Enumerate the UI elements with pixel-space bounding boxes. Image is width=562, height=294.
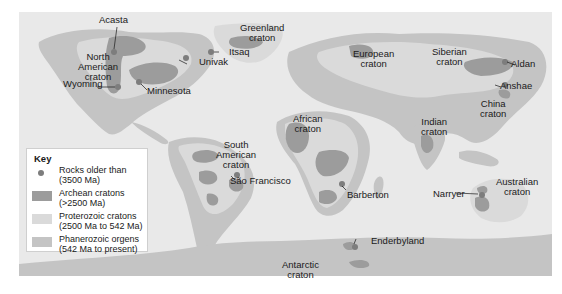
craton-label-indian: Indian craton <box>421 117 447 137</box>
narryer-dot <box>479 192 485 198</box>
site-label-acasta: Acasta <box>99 15 128 25</box>
univak-dot <box>183 55 189 61</box>
craton-label-european: European craton <box>353 49 394 69</box>
map-legend: Key Rocks older than (3500 Ma) Archean c… <box>26 148 148 252</box>
phanerozoic-swatch-icon <box>32 237 52 247</box>
craton-label-australian: Australian craton <box>496 177 538 197</box>
legend-item-phanerozoic: Phanerozoic orgens (542 Ma to present) <box>32 234 148 256</box>
site-label-itsaq: Itsaq <box>229 47 250 57</box>
central-america <box>131 122 168 144</box>
enderbyland-dot <box>352 244 358 250</box>
legend-item-old-rocks: Rocks older than (3500 Ma) <box>32 165 148 187</box>
site-label-minnesota: Minnesota <box>147 86 191 96</box>
craton-label-african: African craton <box>293 114 323 134</box>
legend-item-proterozoic: Proterozoic cratons (2500 Ma to 542 Ma) <box>32 211 148 233</box>
proterozoic-swatch-icon <box>32 214 52 224</box>
se-asia-islands <box>459 150 499 166</box>
site-label-anshae: Anshae <box>500 81 532 91</box>
craton-label-siberian: Siberian craton <box>432 47 467 67</box>
site-label-barberton: Barberton <box>347 190 389 200</box>
archean-swatch-icon <box>32 191 52 201</box>
craton-label-north-american: North American craton <box>78 52 118 82</box>
old-rock-dot-icon <box>38 170 44 176</box>
craton-label-south-american: South American craton <box>216 140 256 170</box>
itsaq-dot <box>208 49 214 55</box>
legend-title: Key <box>34 153 51 164</box>
craton-label-antarctic: Antarctic craton <box>282 260 319 280</box>
wyoming-dot <box>115 84 121 90</box>
site-label-narryer: Narryer <box>433 189 465 199</box>
legend-item-archean: Archean cratons (>2500 Ma) <box>32 188 148 210</box>
craton-label-china: China craton <box>480 99 506 119</box>
craton-label-greenland: Greenland craton <box>240 23 284 43</box>
site-label-enderbyland: Enderbyland <box>371 236 424 246</box>
site-label-sao-francisco: São Francisco <box>230 176 291 186</box>
site-label-univak: Univak <box>199 57 228 67</box>
site-label-aldan: Aldan <box>511 59 535 69</box>
